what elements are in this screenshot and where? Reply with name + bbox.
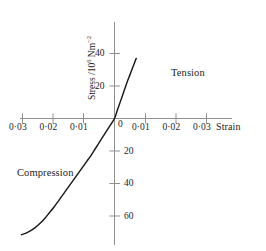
y-axis-title-exponent-six: 6: [85, 60, 92, 63]
x-tick-label-neg-002: 0·02: [40, 123, 58, 133]
y-tick-label-neg-40: 40: [124, 179, 134, 189]
y-tick-label-pos-40: 40: [95, 49, 105, 59]
y-axis-title-exponent-minus-two: −2: [85, 36, 92, 43]
x-axis-title: Strain: [216, 122, 241, 132]
origin-tick-label: 0: [118, 120, 123, 130]
stress-strain-curve: [22, 58, 137, 234]
x-tick-label-pos-002: 0·02: [163, 123, 181, 133]
y-tick-label-neg-20: 20: [124, 147, 134, 157]
x-tick-label-pos-001: 0·01: [132, 123, 150, 133]
x-tick-label-pos-003: 0·03: [193, 123, 211, 133]
x-tick-label-neg-001: 0·01: [70, 123, 88, 133]
y-tick-label-pos-20: 20: [95, 82, 105, 92]
x-tick-label-neg-003: 0·03: [9, 123, 27, 133]
compression-annotation: Compression: [17, 168, 74, 179]
tension-annotation: Tension: [171, 68, 205, 79]
y-tick-label-neg-60: 60: [124, 212, 134, 222]
stress-strain-chart-figure: Stress /106 Nm−2 Strain 0 0·03 0·02 0·01…: [0, 0, 266, 251]
